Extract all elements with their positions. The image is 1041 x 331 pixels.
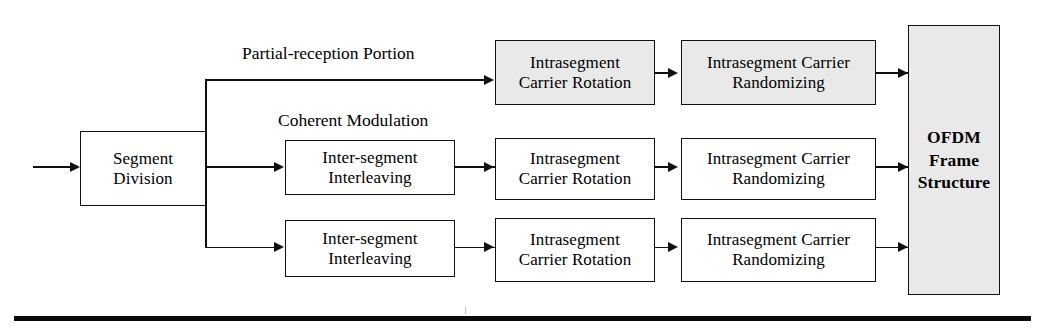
input-arrowhead-icon — [70, 162, 80, 172]
block-mid-inter-segment-interleaving[interactable]: Inter-segmentInterleaving — [285, 140, 455, 195]
mid-branch-arrowhead-icon — [274, 162, 284, 172]
bottom-separator-rule — [14, 316, 1031, 321]
block-bot-intrasegment-carrier-randomizing[interactable]: Intrasegment CarrierRandomizing — [681, 218, 876, 282]
block-bot-rotation-label: IntrasegmentCarrier Rotation — [515, 230, 636, 269]
top-rotation-to-randomizing-arrowhead-icon — [668, 68, 678, 78]
mid-branch-line — [205, 166, 278, 168]
mid-randomizing-to-ofdm-arrowhead-icon — [898, 162, 908, 172]
block-bot-inter-segment-interleaving[interactable]: Inter-segmentInterleaving — [285, 220, 455, 277]
block-top-randomizing-label: Intrasegment CarrierRandomizing — [703, 53, 854, 92]
block-diagram-canvas: SegmentDivision Partial-reception Portio… — [0, 0, 1041, 331]
label-partial-reception-portion: Partial-reception Portion — [242, 43, 415, 64]
block-bot-interleaving-label: Inter-segmentInterleaving — [318, 229, 421, 268]
block-mid-interleaving-label: Inter-segmentInterleaving — [318, 148, 421, 187]
block-mid-rotation-label: IntrasegmentCarrier Rotation — [515, 149, 636, 188]
branch-bus-vertical — [205, 79, 207, 248]
block-top-intrasegment-carrier-rotation[interactable]: IntrasegmentCarrier Rotation — [495, 40, 655, 105]
bot-randomizing-to-ofdm-arrowhead-icon — [898, 242, 908, 252]
top-randomizing-to-ofdm-arrowhead-icon — [898, 68, 908, 78]
block-top-intrasegment-carrier-randomizing[interactable]: Intrasegment CarrierRandomizing — [681, 40, 876, 105]
bot-interleaving-to-rotation-arrowhead-icon — [484, 242, 494, 252]
top-branch-line — [205, 79, 488, 81]
block-bot-randomizing-label: Intrasegment CarrierRandomizing — [703, 230, 854, 269]
top-branch-arrowhead-icon — [484, 75, 494, 85]
block-mid-intrasegment-carrier-randomizing[interactable]: Intrasegment CarrierRandomizing — [681, 138, 876, 200]
block-bot-intrasegment-carrier-rotation[interactable]: IntrasegmentCarrier Rotation — [495, 218, 655, 282]
mid-interleaving-to-rotation-arrowhead-icon — [484, 162, 494, 172]
block-ofdm-label: OFDMFrameStructure — [914, 126, 995, 193]
block-mid-intrasegment-carrier-rotation[interactable]: IntrasegmentCarrier Rotation — [495, 138, 655, 200]
bot-branch-arrowhead-icon — [274, 242, 284, 252]
bot-rotation-to-randomizing-arrowhead-icon — [668, 242, 678, 252]
block-mid-randomizing-label: Intrasegment CarrierRandomizing — [703, 149, 854, 188]
block-ofdm-frame-structure[interactable]: OFDMFrameStructure — [908, 25, 1000, 295]
bot-branch-line — [205, 247, 278, 249]
block-top-rotation-label: IntrasegmentCarrier Rotation — [515, 53, 636, 92]
label-coherent-modulation: Coherent Modulation — [278, 110, 428, 131]
mid-rotation-to-randomizing-arrowhead-icon — [668, 162, 678, 172]
block-segment-division-label: SegmentDivision — [109, 149, 177, 188]
block-segment-division[interactable]: SegmentDivision — [80, 131, 206, 206]
scan-speck — [465, 307, 466, 314]
input-arrow-line — [33, 166, 75, 168]
